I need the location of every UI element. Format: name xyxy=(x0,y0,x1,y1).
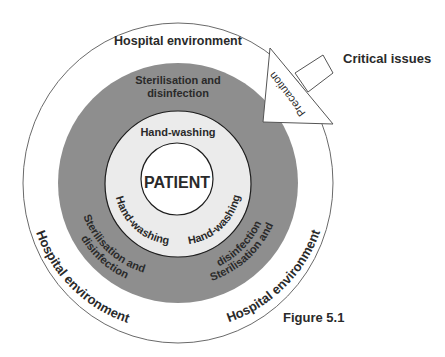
figure-caption: Figure 5.1 xyxy=(283,310,344,325)
precaution-arrow: Precaution xyxy=(263,48,333,124)
infection-control-diagram: Precaution Hospital environment Sterilis… xyxy=(0,0,445,357)
middle-ring-top-label-line2: disinfection xyxy=(147,87,209,99)
patient-label: PATIENT xyxy=(144,174,210,191)
middle-ring-top-label-line1: Sterilisation and xyxy=(135,74,221,86)
critical-issues-label: Critical issues xyxy=(343,51,431,66)
inner-ring-top-label: Hand-washing xyxy=(140,126,215,138)
outer-ring-top-label: Hospital environment xyxy=(114,34,243,48)
diagram-canvas: Precaution Hospital environment Sterilis… xyxy=(0,0,445,357)
